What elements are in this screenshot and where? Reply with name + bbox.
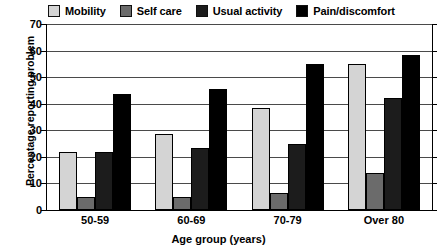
bar-group: Over 80 [336,24,432,210]
legend-label-usual-activity: Usual activity [213,5,283,17]
y-axis-tick-mark-right [432,130,437,131]
y-axis-tick-mark-right [432,51,437,52]
bar-groups: 50-5960-6970-79Over 80 [47,24,432,210]
legend-item-self-care: Self care [120,5,182,17]
bar[interactable] [173,197,191,210]
legend-label-pain-discomfort: Pain/discomfort [313,5,395,17]
bar[interactable] [155,134,173,210]
y-axis-tick-mark-right [432,157,437,158]
bar[interactable] [77,197,95,210]
bar[interactable] [191,148,209,210]
bar[interactable] [402,55,420,210]
x-axis-title: Age group (years) [0,233,437,245]
y-axis-tick-mark-right [432,210,437,211]
y-axis-tick-mark-right [432,77,437,78]
legend-item-usual-activity: Usual activity [196,5,283,17]
y-axis-tick-mark-right [432,24,437,25]
legend-swatch-icon-self-care [120,5,132,17]
legend-swatch-icon-pain-discomfort [296,5,308,17]
bar[interactable] [252,108,270,210]
bar-group: 50-59 [47,24,143,210]
legend-item-pain-discomfort: Pain/discomfort [296,5,395,17]
bar[interactable] [348,64,366,210]
y-axis-tick-mark-right [432,183,437,184]
legend-item-mobility: Mobility [48,5,106,17]
bar[interactable] [95,152,113,210]
chart-legend: Mobility Self care Usual activity Pain/d… [48,2,433,20]
x-axis-tick-label: Over 80 [336,210,432,226]
x-axis-tick-label: 70-79 [240,210,336,226]
bar[interactable] [366,173,384,210]
plot-area: 010203040506070 50-5960-6970-79Over 80 [46,24,433,211]
x-axis-tick-label: 50-59 [47,210,143,226]
bar[interactable] [209,89,227,210]
bar-group: 70-79 [240,24,336,210]
bar[interactable] [270,193,288,210]
legend-label-self-care: Self care [137,5,182,17]
x-axis-tick-label: 60-69 [143,210,239,226]
legend-swatch-icon-mobility [48,5,60,17]
bar[interactable] [306,64,324,210]
bar[interactable] [384,98,402,210]
bar[interactable] [113,94,131,210]
bar[interactable] [59,152,77,210]
legend-swatch-icon-usual-activity [196,5,208,17]
bar-group: 60-69 [143,24,239,210]
bar[interactable] [288,144,306,210]
y-axis-tick-mark-right [432,104,437,105]
legend-label-mobility: Mobility [65,5,106,17]
bar-chart: Mobility Self care Usual activity Pain/d… [0,0,437,252]
